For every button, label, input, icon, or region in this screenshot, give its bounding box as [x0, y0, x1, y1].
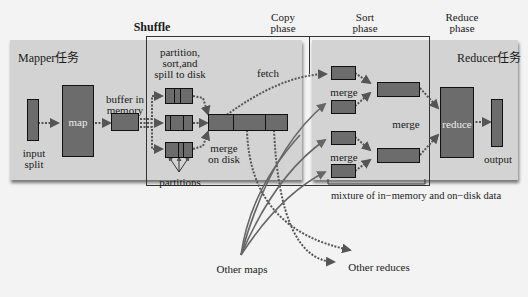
reduce-label: reduce: [441, 118, 473, 130]
merged-file-box: [208, 114, 288, 131]
spill-line3: spill to disk: [150, 69, 210, 80]
segment-box-1: [331, 66, 356, 80]
other-reduces-label: Other reduces: [334, 262, 424, 273]
map-box: map: [62, 85, 94, 157]
input-split-label: input split: [14, 148, 54, 170]
output-box: [491, 99, 503, 147]
map-label: map: [63, 116, 93, 128]
input-split-box: [27, 99, 39, 141]
spill-file-1: [165, 88, 193, 104]
merge-label-3: merge: [326, 152, 362, 163]
merged-segment-top: [377, 82, 420, 97]
merge-on-disk-line2: on disk: [204, 154, 244, 165]
output-label: output: [478, 154, 518, 165]
mixture-label: mixture of in−memory and on−disk data: [312, 190, 520, 201]
reduce-box: reduce: [440, 87, 474, 158]
input-split-line2: split: [14, 159, 54, 170]
spill-file-2: [165, 115, 193, 131]
fetch-label: fetch: [248, 68, 288, 79]
merge-label-1: merge: [326, 87, 362, 98]
spill-file-3: [165, 142, 193, 158]
merge-on-disk-label: merge on disk: [204, 143, 244, 165]
segment-box-4: [331, 164, 356, 178]
partitions-label: partitions: [152, 177, 208, 188]
other-maps-label: Other maps: [204, 264, 280, 275]
merged-segment-bottom: [377, 148, 420, 163]
buffer-box: [111, 113, 139, 131]
spill-label: partition, sort,and spill to disk: [150, 47, 210, 80]
merge-label-2: merge: [388, 119, 424, 130]
segment-box-2: [331, 100, 356, 114]
segment-box-3: [331, 131, 356, 145]
